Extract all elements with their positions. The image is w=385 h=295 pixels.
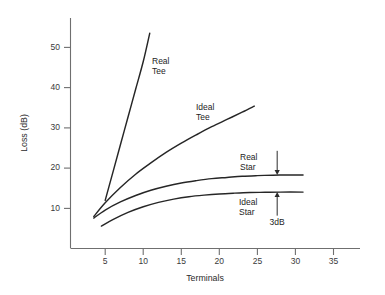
series-label-ideal-star-line2: Star [239,207,255,217]
y-tick-label-10: 10 [51,203,61,213]
x-axis-title: Terminals [186,273,224,283]
series-label-ideal-star-line1: Ideal [239,197,258,207]
series-line-ideal-tee [94,106,255,216]
x-tick-label-35: 35 [329,256,339,266]
x-tick-label-10: 10 [138,256,148,266]
series-line-real-tee [105,33,150,200]
x-tick-label-15: 15 [177,256,187,266]
y-tick-label-40: 40 [51,82,61,92]
x-tick-label-5: 5 [103,256,108,266]
y-tick-label-30: 30 [51,122,61,132]
series-label-real-star-line1: Real [240,152,258,162]
axes-group [71,18,361,249]
series-group [94,33,303,226]
annotation-3db-group: 3dB [270,151,285,227]
x-tick-label-20: 20 [215,256,225,266]
annotation-label-3db: 3dB [270,217,285,227]
series-line-real-star [94,175,303,218]
y-ticks-group: 50 40 30 20 10 [51,42,71,213]
series-label-ideal-tee-line2: Tee [196,112,210,122]
y-tick-label-20: 20 [51,162,61,172]
x-ticks-group: 5 10 15 20 25 30 35 [103,249,339,267]
chart-container: 50 40 30 20 10 5 10 15 20 25 30 [0,0,385,295]
series-label-real-tee-line1: Real [152,56,170,66]
loss-vs-terminals-chart: 50 40 30 20 10 5 10 15 20 25 30 [0,0,385,295]
annotation-arrowhead-down [275,170,280,175]
series-label-real-tee-line2: Tee [152,66,166,76]
series-label-real-star-line2: Star [240,162,256,172]
x-tick-label-30: 30 [291,256,301,266]
series-label-ideal-tee-line1: Ideal [196,102,215,112]
y-axis-title: Loss (dB) [19,114,29,152]
x-tick-label-25: 25 [253,256,263,266]
y-tick-label-50: 50 [51,42,61,52]
